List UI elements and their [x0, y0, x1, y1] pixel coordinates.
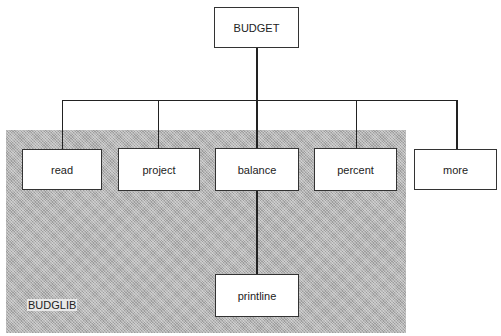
node-more: more: [414, 149, 497, 190]
node-budget: BUDGET: [214, 7, 299, 48]
node-label: BUDGET: [234, 22, 280, 34]
connector-read: [62, 100, 64, 149]
node-label: project: [142, 164, 175, 176]
node-percent: percent: [314, 148, 397, 191]
connector-percent: [356, 100, 358, 148]
node-label: printline: [238, 290, 277, 302]
node-project: project: [118, 148, 200, 191]
node-balance: balance: [215, 148, 299, 191]
horizontal-bus: [62, 100, 458, 102]
connector-printline: [256, 191, 258, 274]
connector-balance: [256, 100, 258, 148]
connector-more: [456, 100, 458, 149]
node-label: percent: [337, 164, 374, 176]
node-read: read: [22, 149, 102, 190]
node-label: balance: [238, 164, 277, 176]
connector-project: [158, 100, 160, 148]
library-label: BUDGLIB: [27, 299, 77, 311]
node-label: more: [443, 164, 468, 176]
root-connector: [256, 48, 258, 100]
node-label: read: [51, 164, 73, 176]
node-printline: printline: [215, 274, 299, 317]
